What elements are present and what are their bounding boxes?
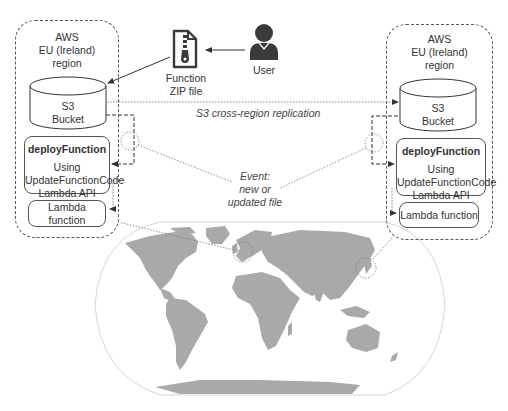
event-line-2: new or (222, 183, 288, 196)
left-deploy-line-2: UpdateFunctionCode (25, 174, 109, 187)
left-deploy-function-title: deployFunction (25, 143, 109, 156)
right-deploy-line-3: Lambda API (397, 189, 485, 202)
right-region-title-line-2: EU (Ireland) (386, 46, 493, 59)
event-line-3: updated file (222, 196, 288, 209)
left-deploy-line-3: Lambda API (25, 187, 109, 200)
right-region-title-line-1: AWS (386, 33, 493, 46)
world-map-icon (95, 222, 445, 395)
right-deploy-function-box: deployFunction Using UpdateFunctionCode … (396, 138, 486, 196)
event-line-1: Event: (222, 170, 288, 183)
right-bucket-line-2: Bucket (400, 115, 476, 128)
user-icon (250, 24, 278, 60)
left-s3-bucket-label: S3 Bucket (30, 100, 106, 126)
zip-file-line-1: Function (158, 72, 214, 85)
zip-file-line-2: ZIP file (158, 85, 214, 98)
right-deploy-line-1: Using (397, 163, 485, 176)
left-region-title: AWS EU (Ireland) region (15, 31, 119, 70)
left-region-title-line-1: AWS (15, 31, 119, 44)
event-label: Event: new or updated file (222, 170, 288, 209)
replication-label: S3 cross-region replication (196, 107, 316, 120)
zip-file-icon (174, 31, 196, 67)
right-s3-bucket-label: S3 Bucket (400, 102, 476, 128)
right-deploy-line-2: UpdateFunctionCode (397, 176, 485, 189)
right-deploy-function-title: deployFunction (397, 145, 485, 158)
right-lambda-function-label: Lambda function (400, 209, 478, 222)
left-deploy-function-box: deployFunction Using UpdateFunctionCode … (24, 136, 110, 194)
right-region-title: AWS EU (Ireland) region (386, 33, 493, 72)
left-region-title-line-2: EU (Ireland) (15, 44, 119, 57)
left-bucket-line-1: S3 (30, 100, 106, 113)
left-lambda-function-label: Lambda function (29, 201, 105, 227)
right-lambda-function-box: Lambda function (399, 202, 479, 228)
left-lambda-function-box: Lambda function (28, 200, 106, 227)
left-bucket-line-2: Bucket (30, 113, 106, 126)
left-deploy-line-1: Using (25, 161, 109, 174)
zip-file-label: Function ZIP file (158, 72, 214, 98)
user-label: User (244, 64, 284, 77)
left-region-title-line-3: region (15, 57, 119, 70)
right-bucket-line-1: S3 (400, 102, 476, 115)
right-region-title-line-3: region (386, 59, 493, 72)
